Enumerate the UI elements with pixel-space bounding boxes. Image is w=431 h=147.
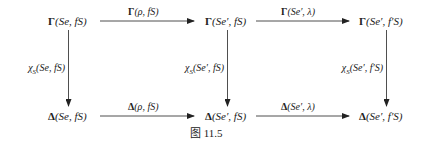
- node-gamma-se-prime-fs: Γ(Se′, fS): [205, 15, 246, 27]
- label-chi-se-prime-fs: χS(Se′, fS): [185, 62, 224, 78]
- label-gamma-se-prime-lambda: Γ(Se′, λ): [281, 6, 315, 17]
- label-delta-rho-fs: Δ(ρ, fS): [128, 101, 159, 112]
- label-chi-se-prime-f-prime-s: χS(Se′, f′S): [342, 62, 383, 78]
- label-chi-se-fs: χS(Se, fS): [28, 62, 65, 78]
- node-gamma-se-prime-f-prime-s: Γ(Se′, f′S): [359, 15, 403, 27]
- node-gamma-se-fs: Γ(Se, fS): [48, 15, 87, 27]
- label-delta-se-prime-lambda: Δ(Se′, λ): [281, 101, 315, 112]
- figure-caption: 图 11.5: [190, 127, 223, 139]
- label-gamma-rho-fs: Γ(ρ, fS): [128, 6, 159, 17]
- node-delta-se-prime-f-prime-s: Δ(Se′, f′S): [359, 110, 402, 122]
- node-delta-se-fs: Δ(Se, fS): [48, 110, 87, 122]
- node-delta-se-prime-fs: Δ(Se′, fS): [205, 110, 246, 122]
